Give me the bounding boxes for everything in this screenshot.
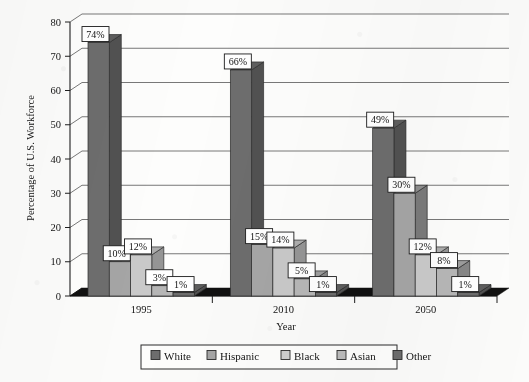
- data-label: 8%: [430, 253, 457, 268]
- data-label: 30%: [388, 177, 415, 192]
- legend-item[interactable]: Asian: [337, 350, 376, 362]
- x-axis-title: Year: [276, 321, 296, 332]
- data-label-text: 49%: [371, 114, 389, 125]
- data-label-text: 12%: [129, 241, 147, 252]
- legend: WhiteHispanicBlackAsianOther: [141, 345, 431, 369]
- legend-swatch: [337, 351, 346, 360]
- data-label-text: 10%: [108, 248, 126, 259]
- y-tick-label: 80: [51, 17, 62, 28]
- chart-container: 01020304050607080 199520102050 74%10%12%…: [0, 0, 529, 382]
- legend-swatch: [151, 351, 160, 360]
- data-label: 1%: [167, 277, 194, 292]
- data-label: 49%: [367, 112, 394, 127]
- data-label-text: 1%: [459, 279, 472, 290]
- y-tick-label: 0: [56, 291, 61, 302]
- data-label: 14%: [267, 232, 294, 247]
- y-tick-label: 50: [51, 119, 62, 130]
- data-label-text: 5%: [295, 265, 308, 276]
- data-label-text: 15%: [250, 231, 268, 242]
- legend-swatch: [207, 351, 216, 360]
- x-axis-ticks: [212, 296, 497, 303]
- data-label: 66%: [224, 54, 251, 69]
- x-tick-labels: 199520102050: [131, 304, 437, 315]
- data-label-text: 14%: [271, 234, 289, 245]
- y-tick-label: 40: [51, 154, 62, 165]
- legend-item[interactable]: Other: [393, 350, 431, 362]
- legend-swatch: [281, 351, 290, 360]
- data-label-text: 3%: [153, 272, 166, 283]
- x-tick-label: 1995: [131, 304, 152, 315]
- legend-label: Other: [406, 350, 431, 362]
- data-label: 1%: [452, 277, 479, 292]
- data-label-text: 30%: [392, 179, 410, 190]
- data-label: 1%: [309, 277, 336, 292]
- data-label: 5%: [288, 263, 315, 278]
- y-tick-label: 30: [51, 188, 62, 199]
- data-label-text: 12%: [414, 241, 432, 252]
- bar-chart-svg: 01020304050607080 199520102050 74%10%12%…: [0, 0, 529, 382]
- y-axis-title: Percentage of U.S. Workforce: [25, 95, 36, 221]
- data-label-text: 1%: [174, 279, 187, 290]
- data-label-text: 8%: [437, 255, 450, 266]
- legend-label: Asian: [350, 350, 376, 362]
- legend-label: White: [164, 350, 191, 362]
- x-tick-label: 2010: [273, 304, 294, 315]
- legend-item[interactable]: Black: [281, 350, 320, 362]
- legend-item[interactable]: White: [151, 350, 191, 362]
- y-tick-label: 60: [51, 85, 62, 96]
- y-tick-label: 70: [51, 51, 62, 62]
- data-label: 12%: [125, 239, 152, 254]
- x-tick-label: 2050: [415, 304, 436, 315]
- y-axis-ticks: [65, 22, 70, 296]
- data-label-text: 74%: [86, 29, 104, 40]
- y-tick-label: 10: [51, 256, 62, 267]
- y-tick-labels: 01020304050607080: [51, 17, 62, 302]
- legend-label: Black: [294, 350, 320, 362]
- legend-label: Hispanic: [220, 350, 259, 362]
- data-label-text: 1%: [316, 279, 329, 290]
- data-label-text: 66%: [229, 56, 247, 67]
- data-label: 74%: [82, 27, 109, 42]
- legend-item[interactable]: Hispanic: [207, 350, 259, 362]
- data-label: 12%: [409, 239, 436, 254]
- legend-swatch: [393, 351, 402, 360]
- y-tick-label: 20: [51, 222, 62, 233]
